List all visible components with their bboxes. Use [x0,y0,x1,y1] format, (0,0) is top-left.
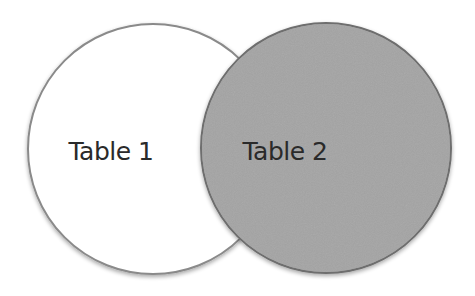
set-table2: Table 2 [201,23,451,273]
venn-diagram: Table 1 Table 2 [0,0,475,296]
table1-label: Table 1 [67,137,153,166]
table2-label: Table 2 [241,137,327,166]
